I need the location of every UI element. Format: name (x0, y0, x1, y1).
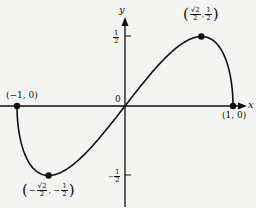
x-axis-arrow-icon (238, 103, 247, 110)
point-marker (230, 103, 236, 109)
point-label-left: (−1, 0) (6, 91, 38, 100)
y-axis-label: y (119, 5, 125, 15)
x-axis-label: x (248, 100, 254, 110)
point-marker (14, 103, 20, 109)
origin-label: 0 (115, 95, 121, 104)
point-label-min: ( − √22 , − 12 ) (22, 183, 75, 198)
point-label-right: (1, 0) (222, 111, 246, 120)
y-tick-label-neg-half: −12 (108, 169, 120, 184)
figure: x y 0 12 −12 (−1, 0) (1, 0) ( √22 , 12 )… (0, 0, 256, 208)
y-tick-label-half: 12 (113, 30, 119, 45)
plot-area (0, 0, 256, 208)
point-marker (45, 172, 51, 178)
point-marker (198, 33, 204, 39)
point-label-max: ( √22 , 12 ) (183, 7, 219, 22)
y-axis-arrow-icon (122, 17, 129, 26)
